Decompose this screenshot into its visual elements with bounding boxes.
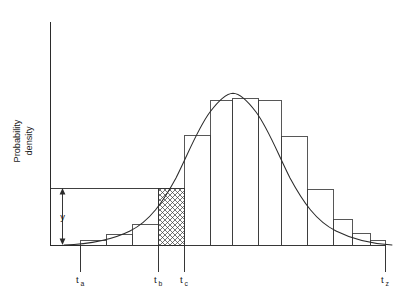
histogram-bar-hatched xyxy=(158,188,184,245)
measure-label-y: y xyxy=(60,211,65,222)
density-curve xyxy=(64,93,392,245)
histogram-bar xyxy=(232,98,258,245)
arrow-head-down-icon xyxy=(60,239,66,246)
histogram-bar xyxy=(281,136,307,245)
y-axis-title-line1: Probability xyxy=(12,119,22,162)
tick-label-tc-base: t xyxy=(180,274,183,285)
figure-container: Probability density y t a t b t c t z xyxy=(0,0,410,303)
histogram-bar xyxy=(258,100,281,245)
histogram-bar xyxy=(184,135,210,245)
tick-label-tz-sub: z xyxy=(386,280,390,287)
arrow-head-up-icon xyxy=(60,188,66,195)
x-tick-lines xyxy=(81,245,386,272)
histogram-bar xyxy=(307,189,333,245)
histogram-bar xyxy=(333,219,352,245)
tick-label-tz-base: t xyxy=(381,274,384,285)
y-axis-title-line2: density xyxy=(24,126,34,156)
histogram-bar xyxy=(210,100,232,245)
tick-label-ta-base: t xyxy=(76,274,79,285)
histogram-bars xyxy=(80,98,385,245)
density-curve-group xyxy=(64,93,392,245)
probability-density-figure: Probability density y t a t b t c t z xyxy=(0,0,410,303)
tick-label-tb-base: t xyxy=(154,274,157,285)
axis-group xyxy=(50,22,386,246)
tick-label-tb-sub: b xyxy=(159,280,163,287)
tick-label-ta-sub: a xyxy=(81,280,85,287)
tick-label-tc-sub: c xyxy=(185,280,189,287)
